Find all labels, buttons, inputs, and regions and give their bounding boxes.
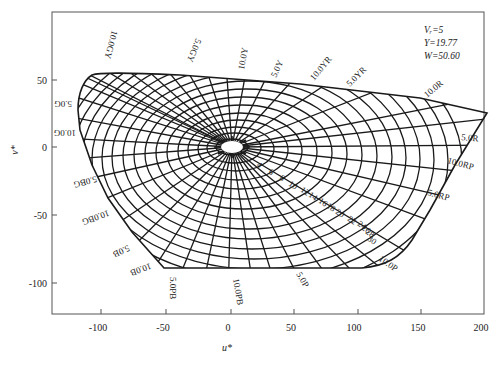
center-neutral-point (221, 141, 243, 153)
hue-label-5gy: 5.0GY (185, 37, 204, 64)
x-tick-label: 0 (226, 322, 231, 333)
hue-label-10b: 10.0B (129, 261, 153, 278)
y-tick-label: -50 (34, 210, 47, 221)
hue-label-10y: 10.0Y (236, 46, 250, 70)
hue-label-5b: 5.0B (112, 243, 132, 259)
chroma-label: 8 (278, 172, 287, 183)
y-tick-labels: 50 0 -50 -100 (29, 75, 47, 289)
munsell-uv-chart: -100 -50 0 50 100 150 200 50 0 -50 -100 … (0, 0, 501, 365)
hue-label-10yr: 10.0YR (308, 54, 334, 82)
x-tick-labels: -100 -50 0 50 100 150 200 (89, 322, 489, 333)
hue-label-10rp: 10.0RP (446, 155, 474, 172)
y-axis-title: v* (9, 145, 20, 154)
info-vr: Vᵣ=5 (424, 25, 444, 35)
hue-label-5yr: 5.0YR (344, 65, 368, 89)
hue-label-5r: 5.0R (461, 132, 479, 143)
x-tick-label: 150 (411, 322, 426, 333)
x-tick-label: -50 (156, 322, 169, 333)
y-tick-label: 50 (37, 75, 47, 86)
hue-label-10bg: 10.0BG (80, 208, 110, 227)
x-tick-label: 50 (286, 322, 296, 333)
x-tick-label: -100 (89, 322, 107, 333)
hue-label-10pb: 10.0PB (231, 278, 245, 306)
hue-label-5p: 5.0P (294, 270, 311, 289)
hue-label-10r: 10.0R (422, 78, 445, 100)
info-annotation: Vᵣ=5 Y=19.77 W=50.60 (424, 25, 460, 61)
info-w: W=50.60 (424, 51, 460, 61)
hue-label-5y: 5.0Y (269, 58, 286, 79)
y-axis-ticks (52, 80, 57, 283)
x-tick-label: 100 (347, 322, 362, 333)
y-tick-label: 0 (42, 142, 47, 153)
x-axis-ticks (101, 309, 421, 314)
x-tick-label: 200 (474, 322, 489, 333)
hue-label-5rp: 5.0RP (426, 187, 450, 202)
y-tick-label: -100 (29, 278, 47, 289)
info-y: Y=19.77 (424, 38, 458, 48)
hue-label-10g: 10.0G (53, 128, 76, 138)
hue-label-5pb: 5.0PB (168, 277, 178, 299)
hue-label-10gy: 10.0GY (102, 29, 119, 60)
hue-label-5bg: 5.0BG (72, 174, 98, 190)
hue-label-5g: 5.0G (54, 99, 72, 109)
x-axis-title: u* (222, 342, 232, 353)
